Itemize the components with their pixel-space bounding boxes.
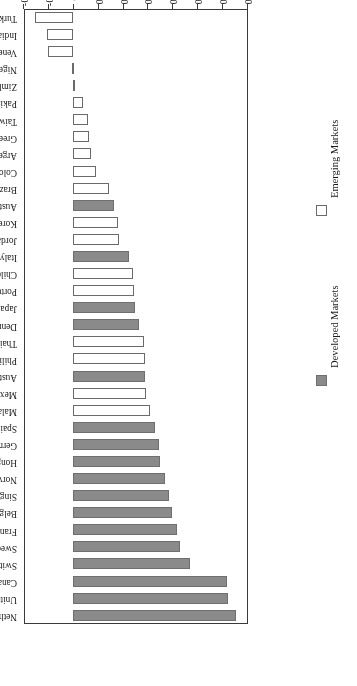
bar-row (25, 163, 247, 179)
bar-row (25, 95, 247, 111)
category-label: Sweden (0, 540, 17, 556)
bar-row (25, 539, 247, 555)
axis-tick-label: 0.3 (144, 0, 154, 18)
category-label: Argentina (0, 147, 17, 163)
bar-row (25, 9, 247, 25)
category-label: Pakistan (0, 96, 17, 112)
bar-row (25, 112, 247, 128)
bar-row (25, 436, 247, 452)
category-label: Belgium (0, 506, 17, 522)
bar-row (25, 505, 247, 521)
axis-tick-label: 0.5 (194, 0, 204, 18)
bar-row (25, 590, 247, 606)
bar-japan (73, 302, 135, 313)
legend-label-developed: Developed Markets (329, 285, 340, 368)
bar-greece (73, 131, 89, 142)
category-label: Brazil (0, 181, 17, 197)
bar-hong-kong (73, 456, 160, 467)
category-label: Canada (0, 574, 17, 590)
category-label: Austria (0, 198, 17, 214)
legend-swatch-developed (316, 375, 327, 386)
bar-row (25, 573, 247, 589)
bar-netherlands (73, 610, 236, 621)
bar-norway (73, 473, 165, 484)
category-label: Greece (0, 130, 17, 146)
bar-switzerland (73, 558, 190, 569)
axis-tick-label: 0.7 (244, 0, 254, 18)
bar-row (25, 78, 247, 94)
category-label: Philippines (0, 352, 17, 368)
category-label: Jordan (0, 232, 17, 248)
axis-tick-label: 0 (70, 0, 80, 18)
bar-nigeria (72, 63, 74, 74)
bar-row (25, 334, 247, 350)
bar-row (25, 146, 247, 162)
bar-germany (73, 439, 159, 450)
bar-argentina (73, 148, 92, 159)
axis-tick-label: 0.1 (95, 0, 105, 18)
bar-pakistan (73, 97, 83, 108)
bar-belgium (73, 507, 173, 518)
axis-tick-label: 0.4 (169, 0, 179, 18)
category-label: France (0, 523, 17, 539)
bar-taiwan (73, 114, 88, 125)
bar-austria (73, 200, 114, 211)
bar-row (25, 351, 247, 367)
category-label: Malaysia (0, 403, 17, 419)
category-label: Hong Kong (0, 454, 17, 470)
bar-row (25, 317, 247, 333)
bar-portugal (73, 285, 134, 296)
bar-denmark (73, 319, 139, 330)
bar-row (25, 197, 247, 213)
bar-row (25, 453, 247, 469)
category-label: Netherlands (0, 608, 17, 624)
legend-label-emerging: Emerging Markets (329, 120, 340, 198)
bar-chile (73, 268, 133, 279)
bar-brazil (73, 183, 109, 194)
bar-malaysia (73, 405, 150, 416)
category-label: Turkey (0, 10, 17, 26)
axis-tick-label: 0.2 (120, 0, 130, 18)
bar-france (73, 524, 178, 535)
bar-italy (73, 251, 129, 262)
category-label: Italy (0, 249, 17, 265)
bar-canada (73, 576, 227, 587)
category-label: Nigeria (0, 62, 17, 78)
category-label: Mexico (0, 386, 17, 402)
category-label: Singapore (0, 489, 17, 505)
bar-philippines (73, 353, 145, 364)
bar-row (25, 180, 247, 196)
bar-row (25, 43, 247, 59)
bar-row (25, 231, 247, 247)
bar-row (25, 248, 247, 264)
bar-united-kingdom (73, 593, 229, 604)
category-label: Taiwan (0, 113, 17, 129)
axis-tick-label: -0.1 (45, 0, 55, 18)
bar-row (25, 129, 247, 145)
category-label: United Kingdom (0, 591, 17, 607)
bar-sweden (73, 541, 180, 552)
category-label: Chile (0, 267, 17, 283)
bar-zimbabwe (73, 80, 75, 91)
category-label: Zimbabwe (0, 79, 17, 95)
category-label: Japan (0, 301, 17, 317)
category-label: Norway (0, 472, 17, 488)
bar-row (25, 488, 247, 504)
bar-row (25, 522, 247, 538)
category-label: Thailand (0, 335, 17, 351)
category-label: Colombia (0, 164, 17, 180)
chart-figure: 0.70.60.50.40.30.20.10-0.1-0.2 Netherlan… (0, 0, 357, 686)
bar-row (25, 26, 247, 42)
bar-korea (73, 217, 118, 228)
bar-row (25, 385, 247, 401)
bar-india (47, 29, 73, 40)
bar-row (25, 402, 247, 418)
bar-spain (73, 422, 155, 433)
category-label: Switzerland (0, 557, 17, 573)
bar-row (25, 214, 247, 230)
category-label: Spain (0, 420, 17, 436)
bar-row (25, 61, 247, 77)
category-label: Australia (0, 369, 17, 385)
category-label: Denmark (0, 318, 17, 334)
bar-row (25, 607, 247, 623)
